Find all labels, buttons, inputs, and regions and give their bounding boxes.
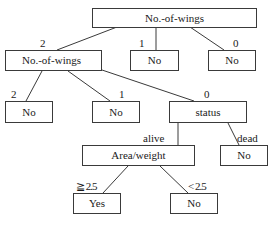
- node-label: No.-of-wings: [22, 55, 81, 66]
- edge-area-lt: [160, 166, 188, 193]
- edge-root-wings2: [57, 27, 117, 50]
- node-leaf-wings-1-no: No: [130, 50, 179, 71]
- edge-wings2-1: [68, 71, 110, 101]
- edge-label-alive: alive: [143, 133, 164, 144]
- edge-label-root-1: 1: [139, 38, 145, 49]
- node-leaf-dead-no: No: [220, 145, 268, 166]
- edge-label-wings2-2: 2: [11, 89, 17, 100]
- node-leaf-lt-no: No: [170, 193, 218, 214]
- node-leaf-yes: Yes: [73, 193, 121, 214]
- edge-label-root-0: 0: [233, 38, 239, 49]
- node-leaf-wings-0-no: No: [208, 50, 256, 71]
- edge-wings2-status: [102, 70, 194, 101]
- node-label: No: [225, 55, 238, 66]
- node-leaf-wings2-1-no: No: [92, 101, 140, 123]
- decision-tree-diagram: No.-of-wings No.-of-wings No No No No st…: [0, 0, 273, 225]
- node-label: Yes: [89, 198, 105, 209]
- node-label: status: [195, 107, 220, 118]
- node-label: Area/weight: [111, 150, 165, 161]
- node-label: No.-of-wings: [145, 13, 204, 24]
- edge-label-wings2-0: 0: [204, 89, 210, 100]
- node-area-weight: Area/weight: [82, 145, 195, 166]
- edge-label-lt-2-5: < 2.5: [188, 181, 206, 192]
- node-label: No: [237, 150, 250, 161]
- node-leaf-wings2-2-no: No: [5, 101, 53, 123]
- node-label: No: [109, 107, 122, 118]
- edge-label-wings2-1: 1: [119, 89, 125, 100]
- node-status: status: [169, 101, 247, 123]
- node-label: No: [187, 198, 200, 209]
- edge-wings2-2: [26, 71, 42, 101]
- node-label: No: [148, 55, 161, 66]
- edge-root-wings0: [190, 27, 224, 50]
- edge-label-root-2: 2: [40, 38, 46, 49]
- node-root-no-of-wings: No.-of-wings: [92, 8, 257, 28]
- edge-area-ge: [103, 166, 128, 193]
- node-no-of-wings-2: No.-of-wings: [5, 50, 102, 71]
- edge-label-dead: dead: [237, 133, 258, 144]
- node-label: No: [22, 107, 35, 118]
- edge-label-ge-2-5: ≧ 2.5: [76, 181, 97, 192]
